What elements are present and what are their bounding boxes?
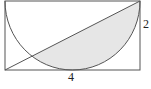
height-label: 2 — [143, 17, 149, 31]
width-label: 4 — [68, 70, 74, 84]
geometry-diagram: 4 2 — [0, 0, 151, 89]
